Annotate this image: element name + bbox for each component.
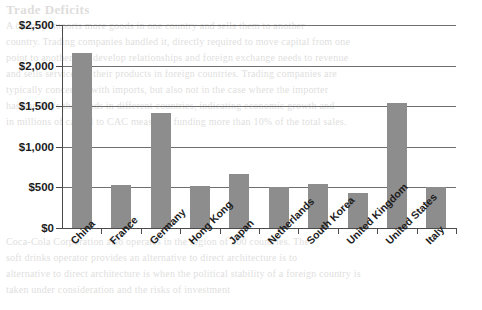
x-tick-mark [259, 228, 260, 234]
y-tick-mark [56, 228, 62, 229]
bar-chart: $0$500$1,000$1,500$2,000$2,500 ChinaFran… [0, 0, 482, 310]
x-tick-mark [377, 228, 378, 234]
y-tick-label: $500 [28, 181, 54, 193]
bar[interactable] [72, 53, 92, 228]
x-tick-mark [180, 228, 181, 234]
y-tick-label: $1,500 [19, 100, 54, 112]
y-tick-label: $0 [41, 222, 54, 234]
x-tick-mark [141, 228, 142, 234]
y-tick-label: $1,000 [19, 141, 54, 153]
x-tick-mark [338, 228, 339, 234]
x-tick-mark [456, 228, 457, 234]
x-tick-mark [298, 228, 299, 234]
x-tick-mark [220, 228, 221, 234]
y-tick-label: $2,000 [19, 60, 54, 72]
x-tick-mark [101, 228, 102, 234]
bar[interactable] [387, 103, 407, 228]
bar[interactable] [151, 113, 171, 228]
y-tick-label: $2,500 [19, 19, 54, 31]
x-tick-mark [417, 228, 418, 234]
